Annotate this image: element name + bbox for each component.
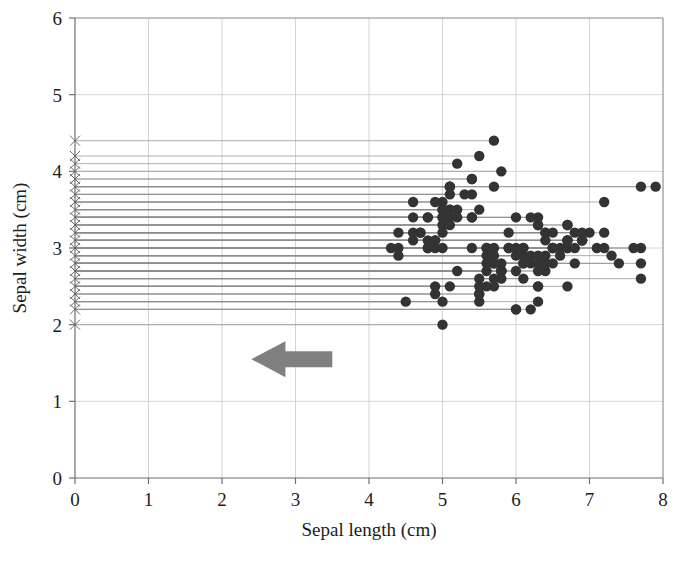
data-point <box>437 204 447 214</box>
data-point <box>474 204 484 214</box>
data-point <box>445 181 455 191</box>
data-point <box>437 296 447 306</box>
data-point <box>467 212 477 222</box>
y-tick-label: 6 <box>53 8 63 29</box>
x-tick-label: 7 <box>585 489 595 510</box>
data-point <box>489 181 499 191</box>
data-point <box>393 227 403 237</box>
data-point <box>474 273 484 283</box>
x-tick-label: 3 <box>291 489 301 510</box>
data-point <box>489 281 499 291</box>
data-point <box>599 243 609 253</box>
y-tick-label: 3 <box>53 238 63 259</box>
x-tick-label: 8 <box>658 489 668 510</box>
projection-connectors-group <box>75 141 656 325</box>
data-point <box>408 212 418 222</box>
data-point <box>562 281 572 291</box>
data-point <box>437 243 447 253</box>
x-tick-label: 2 <box>217 489 227 510</box>
data-point <box>467 174 477 184</box>
data-point <box>496 166 506 176</box>
data-point <box>599 197 609 207</box>
data-point <box>481 258 491 268</box>
y-tick-label: 4 <box>53 161 63 182</box>
data-point <box>489 135 499 145</box>
data-point <box>408 227 418 237</box>
data-point <box>503 243 513 253</box>
x-tick-label: 1 <box>144 489 154 510</box>
x-axis-tick-labels: 012345678 <box>70 489 668 510</box>
data-point <box>423 212 433 222</box>
data-point <box>445 212 455 222</box>
data-point <box>452 158 462 168</box>
data-point <box>518 273 528 283</box>
y-tick-label: 0 <box>53 468 63 489</box>
x-tick-label: 6 <box>511 489 521 510</box>
data-point <box>430 197 440 207</box>
x-tick-label: 4 <box>364 489 374 510</box>
x-tick-label: 0 <box>70 489 80 510</box>
data-point <box>570 258 580 268</box>
data-point <box>430 235 440 245</box>
data-point <box>533 258 543 268</box>
data-point <box>562 220 572 230</box>
data-point <box>511 266 521 276</box>
data-point <box>437 319 447 329</box>
data-point <box>445 281 455 291</box>
data-point <box>636 181 646 191</box>
data-point <box>562 243 572 253</box>
data-point <box>511 304 521 314</box>
data-point <box>548 243 558 253</box>
annotation-arrow-group <box>251 341 332 377</box>
y-tick-label: 1 <box>53 391 63 412</box>
data-point <box>526 304 536 314</box>
data-point <box>503 227 513 237</box>
data-point <box>533 281 543 291</box>
data-point <box>401 296 411 306</box>
data-point <box>526 212 536 222</box>
data-point <box>496 266 506 276</box>
y-tick-label: 2 <box>53 315 63 336</box>
plot-canvas: 012345678 0123456 Sepal length (cm) Sepa… <box>0 0 689 574</box>
left-pointing-arrow <box>251 341 332 377</box>
data-point <box>540 235 550 245</box>
data-point <box>423 243 433 253</box>
data-point <box>636 273 646 283</box>
data-point <box>614 258 624 268</box>
data-point <box>452 266 462 276</box>
y-axis-title: Sepal width (cm) <box>9 183 31 314</box>
data-point <box>393 243 403 253</box>
data-point <box>636 243 646 253</box>
scatter-plot-figure: 012345678 0123456 Sepal length (cm) Sepa… <box>0 0 689 574</box>
data-point <box>467 243 477 253</box>
data-point <box>430 281 440 291</box>
y-axis-tick-labels: 0123456 <box>53 8 63 489</box>
data-point <box>437 220 447 230</box>
data-point <box>459 189 469 199</box>
data-point <box>408 197 418 207</box>
data-point <box>606 250 616 260</box>
data-point <box>570 227 580 237</box>
y-tick-label: 5 <box>53 85 63 106</box>
data-point <box>474 151 484 161</box>
x-axis-title: Sepal length (cm) <box>301 519 436 541</box>
data-point <box>533 296 543 306</box>
data-point <box>577 235 587 245</box>
data-point <box>636 258 646 268</box>
data-point <box>650 181 660 191</box>
data-point <box>511 212 521 222</box>
x-tick-label: 5 <box>438 489 448 510</box>
data-point <box>599 227 609 237</box>
